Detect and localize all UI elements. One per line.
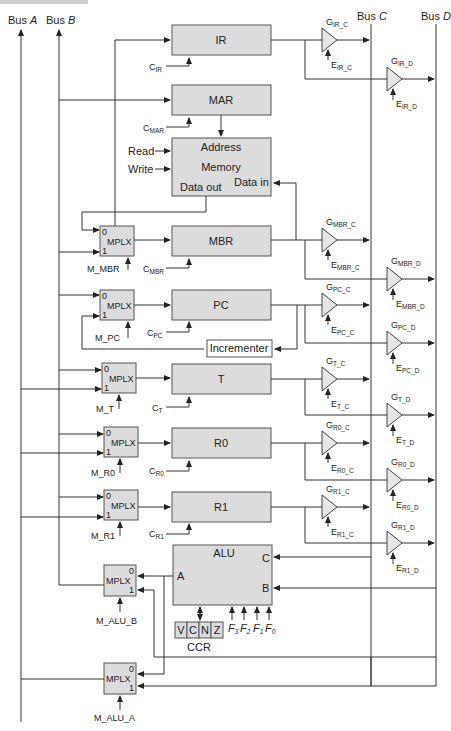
svg-text:1: 1 xyxy=(129,585,134,595)
memory-address-label: Address xyxy=(201,141,242,153)
gate-mbr-c: GMBR_C EMBR_C xyxy=(322,217,369,272)
gate-r1-d: GR1_D ER1_D xyxy=(387,520,434,575)
svg-text:CR1: CR1 xyxy=(149,529,164,540)
m-r1-label: M_R1 xyxy=(91,531,115,541)
svg-text:MPLX: MPLX xyxy=(107,301,132,311)
bus-c-label: Bus C xyxy=(357,10,387,22)
svg-text:EMBR_C: EMBR_C xyxy=(331,260,360,272)
svg-text:EPC_C: EPC_C xyxy=(331,325,355,337)
write-label: Write xyxy=(128,163,153,175)
m-alu-b-label: M_ALU_B xyxy=(96,616,137,626)
svg-text:C: C xyxy=(189,624,197,636)
svg-text:EPC_D: EPC_D xyxy=(396,363,420,375)
svg-text:GR1_C: GR1_C xyxy=(326,484,350,496)
svg-text:1: 1 xyxy=(104,383,109,393)
svg-text:GT_C: GT_C xyxy=(326,356,346,368)
svg-text:V: V xyxy=(177,624,185,636)
t-label: T xyxy=(218,373,225,385)
svg-text:ER1_C: ER1_C xyxy=(331,527,354,539)
c-mar-label: CMAR xyxy=(143,123,164,134)
data-out-label: Data out xyxy=(180,181,222,193)
svg-text:ER0_D: ER0_D xyxy=(396,500,419,512)
svg-text:CMBR: CMBR xyxy=(143,264,164,275)
m-pc-label: M_PC xyxy=(95,333,121,343)
svg-text:0: 0 xyxy=(129,664,134,674)
svg-text:F2: F2 xyxy=(240,622,251,635)
gate-ir-d: GIR_D EIR_D xyxy=(387,56,434,111)
svg-text:F3: F3 xyxy=(228,622,239,635)
svg-text:1: 1 xyxy=(106,510,111,520)
datapath-diagram: Bus A Bus B Bus C Bus D IR CIR MAR CMAR … xyxy=(0,0,451,731)
gate-r1-c: GR1_C ER1_C xyxy=(322,484,369,539)
svg-text:GR0_C: GR0_C xyxy=(326,420,350,432)
svg-text:GIR_C: GIR_C xyxy=(326,17,348,29)
svg-text:CPC: CPC xyxy=(147,328,163,339)
svg-text:0: 0 xyxy=(106,428,111,438)
svg-text:ER0_C: ER0_C xyxy=(331,463,354,475)
svg-text:N: N xyxy=(201,624,209,636)
svg-text:GPC_D: GPC_D xyxy=(391,320,416,332)
svg-text:0: 0 xyxy=(106,491,111,501)
gate-r0-d: GR0_D ER0_D xyxy=(387,457,434,512)
svg-text:GMBR_C: GMBR_C xyxy=(326,217,356,229)
svg-text:ET_D: ET_D xyxy=(396,435,415,447)
svg-text:ET_C: ET_C xyxy=(331,399,350,411)
svg-text:ER1_D: ER1_D xyxy=(396,563,419,575)
svg-text:GPC_C: GPC_C xyxy=(326,282,351,294)
svg-text:1: 1 xyxy=(102,246,107,256)
svg-text:GR1_D: GR1_D xyxy=(391,520,415,532)
svg-text:MPLX: MPLX xyxy=(107,237,132,247)
ir-label: IR xyxy=(216,34,227,46)
mbr-label: MBR xyxy=(209,235,234,247)
svg-text:GR0_D: GR0_D xyxy=(391,457,415,469)
memory-label: Memory xyxy=(201,161,241,173)
bus-d-label: Bus D xyxy=(421,10,451,22)
ccr-register: V C N Z xyxy=(175,622,223,638)
svg-text:MPLX: MPLX xyxy=(106,674,131,684)
gate-pc-c: GPC_C EPC_C xyxy=(322,282,369,337)
read-label: Read xyxy=(128,145,154,157)
c-ir-label: CIR xyxy=(149,62,162,73)
mar-label: MAR xyxy=(209,94,234,106)
pc-label: PC xyxy=(213,299,228,311)
alu-b-label: B xyxy=(262,582,269,594)
m-alu-a-label: M_ALU_A xyxy=(94,713,135,723)
gate-t-c: GT_C ET_C xyxy=(322,356,369,411)
svg-text:MPLX: MPLX xyxy=(111,438,136,448)
m-t-label: M_T xyxy=(96,404,115,414)
alu-a-label: A xyxy=(177,570,185,582)
svg-text:0: 0 xyxy=(129,566,134,576)
svg-text:0: 0 xyxy=(104,364,109,374)
data-in-label: Data in xyxy=(234,176,269,188)
gate-ir-c: GIR_C EIR_C xyxy=(322,17,369,72)
svg-text:0: 0 xyxy=(102,227,107,237)
m-r0-label: M_R0 xyxy=(91,468,115,478)
svg-text:1: 1 xyxy=(102,310,107,320)
svg-text:0: 0 xyxy=(102,291,107,301)
m-mbr-label: M_MBR xyxy=(87,264,120,274)
svg-text:CT: CT xyxy=(152,403,163,414)
svg-text:GIR_D: GIR_D xyxy=(391,56,413,68)
svg-text:CR0: CR0 xyxy=(149,466,164,477)
gate-r0-c: GR0_C ER0_C xyxy=(322,420,369,475)
gate-mbr-d: GMBR_D EMBR_D xyxy=(387,256,434,311)
svg-text:1: 1 xyxy=(106,447,111,457)
svg-text:MPLX: MPLX xyxy=(106,576,131,586)
svg-text:F0: F0 xyxy=(265,622,276,635)
r1-label: R1 xyxy=(214,501,228,513)
gate-pc-d: GPC_D EPC_D xyxy=(387,320,434,375)
bus-b-label: Bus B xyxy=(46,14,75,26)
incrementer-label: Incrementer xyxy=(210,342,269,354)
svg-text:MPLX: MPLX xyxy=(111,501,136,511)
r0-label: R0 xyxy=(214,437,228,449)
ccr-label: CCR xyxy=(187,641,211,653)
gate-t-d: GT_D ET_D xyxy=(387,392,434,447)
svg-text:GMBR_D: GMBR_D xyxy=(391,256,421,268)
svg-text:F1: F1 xyxy=(253,622,264,635)
alu-c-label: C xyxy=(262,552,270,564)
svg-text:Z: Z xyxy=(214,624,221,636)
alu-label: ALU xyxy=(213,547,234,559)
svg-text:EIR_D: EIR_D xyxy=(396,99,417,111)
bus-a-label: Bus A xyxy=(8,14,37,26)
svg-text:GT_D: GT_D xyxy=(391,392,411,404)
